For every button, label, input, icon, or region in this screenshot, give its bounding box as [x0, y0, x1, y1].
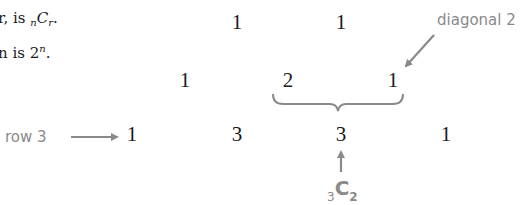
diagonal-arrow-icon [406, 35, 434, 66]
annotation-graphics [0, 0, 524, 205]
curly-brace-icon [273, 94, 403, 111]
